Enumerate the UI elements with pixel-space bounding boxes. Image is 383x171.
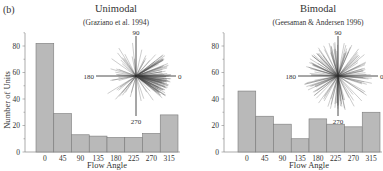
bar bbox=[362, 112, 380, 152]
direction-rose-inset: 901802700 bbox=[84, 29, 183, 126]
bar bbox=[291, 139, 309, 152]
x-tick-label: 135 bbox=[93, 154, 105, 163]
bar bbox=[107, 137, 125, 152]
x-tick-label: 90 bbox=[77, 154, 85, 163]
chart-unimodal: Unimodal (Graziano et al. 1994) Number o… bbox=[2, 3, 182, 170]
y-tick-label: 80 bbox=[13, 42, 21, 51]
y-tick-label: 60 bbox=[212, 68, 220, 77]
rose-label-270: 270 bbox=[333, 118, 344, 126]
x-tick-label: 90 bbox=[279, 154, 287, 163]
rose-label-180: 180 bbox=[84, 73, 95, 81]
rose-label-270: 270 bbox=[131, 118, 142, 126]
bar bbox=[143, 133, 161, 152]
bar bbox=[54, 114, 72, 152]
y-tick-label: 40 bbox=[13, 95, 21, 104]
x-tick-label: 180 bbox=[110, 154, 122, 163]
bars: 04590135180225270315 bbox=[238, 91, 380, 163]
bar bbox=[274, 124, 292, 152]
chart-bimodal: Bimodal (Geesaman & Andersen 1996) Flow … bbox=[212, 3, 383, 170]
y-tick-label: 20 bbox=[13, 121, 21, 130]
y-tick-label: 0 bbox=[16, 148, 20, 157]
panel-label: (b) bbox=[3, 4, 15, 16]
y-tick-label: 20 bbox=[212, 121, 220, 130]
bar bbox=[72, 135, 90, 152]
x-tick-label: 315 bbox=[164, 154, 176, 163]
chart-title: Bimodal bbox=[300, 3, 336, 14]
x-tick-label: 180 bbox=[312, 154, 324, 163]
bar bbox=[345, 127, 363, 152]
chart-title: Unimodal bbox=[95, 3, 137, 14]
y-tick-label: 40 bbox=[212, 95, 220, 104]
bar bbox=[256, 116, 274, 152]
bar bbox=[160, 115, 178, 152]
x-tick-label: 225 bbox=[330, 154, 342, 163]
figure: (b) Unimodal (Graziano et al. 1994) Numb… bbox=[0, 0, 383, 171]
bar bbox=[309, 119, 327, 152]
chart-subtitle: (Graziano et al. 1994) bbox=[83, 18, 149, 27]
x-tick-label: 225 bbox=[128, 154, 140, 163]
rose-label-0: 0 bbox=[178, 73, 182, 81]
y-tick-label: 0 bbox=[215, 148, 219, 157]
x-tick-label: 45 bbox=[59, 154, 67, 163]
bar bbox=[327, 124, 345, 152]
x-tick-label: 0 bbox=[43, 154, 47, 163]
bar bbox=[238, 91, 256, 152]
x-tick-label: 135 bbox=[295, 154, 307, 163]
x-tick-label: 0 bbox=[245, 154, 249, 163]
rose-label-180: 180 bbox=[286, 73, 297, 81]
x-tick-label: 315 bbox=[366, 154, 378, 163]
y-tick-label: 60 bbox=[13, 68, 21, 77]
bar bbox=[36, 43, 54, 152]
x-tick-label: 270 bbox=[348, 154, 360, 163]
x-tick-label: 270 bbox=[146, 154, 158, 163]
x-tick-label: 45 bbox=[261, 154, 269, 163]
y-tick-label: 80 bbox=[212, 42, 220, 51]
rose-label-90: 90 bbox=[335, 29, 343, 37]
direction-rose-inset: 901802700 bbox=[286, 29, 383, 126]
y-axis-label: Number of Units bbox=[2, 71, 12, 129]
rose-label-90: 90 bbox=[133, 29, 141, 37]
chart-subtitle: (Geesaman & Andersen 1996) bbox=[272, 18, 364, 27]
bar bbox=[125, 137, 143, 152]
bar bbox=[89, 136, 107, 152]
